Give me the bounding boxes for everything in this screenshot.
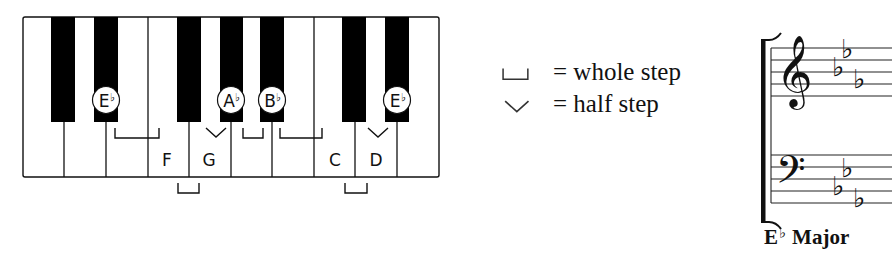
flat-icon: ♭ (401, 91, 406, 104)
note-letter: E (99, 91, 110, 111)
flat-icon: ♭ (853, 64, 865, 94)
note-letter: E (390, 91, 401, 111)
scale-note-badge: E♭ (384, 87, 411, 114)
scale-caption: E♭Major (764, 227, 849, 248)
scale-note-badge: A♭ (218, 87, 245, 114)
flat-icon: ♭ (779, 225, 786, 241)
whole-step-bracket-icon (502, 68, 530, 82)
scale-note-badge: B♭ (259, 87, 286, 114)
black-key (177, 17, 201, 122)
step-legend: = whole step = half step (500, 54, 740, 124)
key-signature: ♭♭♭♭♭♭ (832, 34, 865, 213)
whole-step-bracket-icon (178, 183, 199, 193)
white-key-label: F (162, 150, 172, 170)
caption-word: Major (792, 225, 849, 249)
flat-icon: ♭ (276, 91, 281, 104)
flat-icon: ♭ (841, 34, 853, 64)
flat-icon: ♭ (235, 91, 240, 104)
black-key (342, 17, 366, 122)
legend-label-half-step: = half step (553, 91, 659, 116)
half-step-chevron-icon (504, 100, 532, 114)
white-key-label: G (202, 150, 215, 170)
black-key (51, 17, 75, 122)
flat-icon: ♭ (853, 183, 865, 213)
grand-staff: 𝄞 𝄢 ♭♭♭♭♭♭ (752, 10, 892, 235)
flat-icon: ♭ (841, 153, 853, 183)
scale-note-badge: E♭ (93, 87, 120, 114)
white-key-label: C (329, 150, 341, 170)
flat-icon: ♭ (110, 91, 115, 104)
scale-diagram: E♭A♭B♭E♭ FGCD = whole step = half step 𝄞… (0, 0, 892, 255)
bass-clef-icon: 𝄢 (776, 147, 806, 201)
white-key-label: D (369, 150, 382, 170)
note-letter: B (264, 91, 276, 111)
treble-clef-icon: 𝄞 (776, 34, 813, 110)
note-letter: A (223, 91, 235, 111)
caption-letter: E (764, 225, 778, 249)
piano-keyboard: E♭A♭B♭E♭ FGCD (0, 0, 460, 210)
legend-label-whole-step: = whole step (553, 59, 681, 84)
whole-step-bracket-icon (345, 183, 367, 193)
